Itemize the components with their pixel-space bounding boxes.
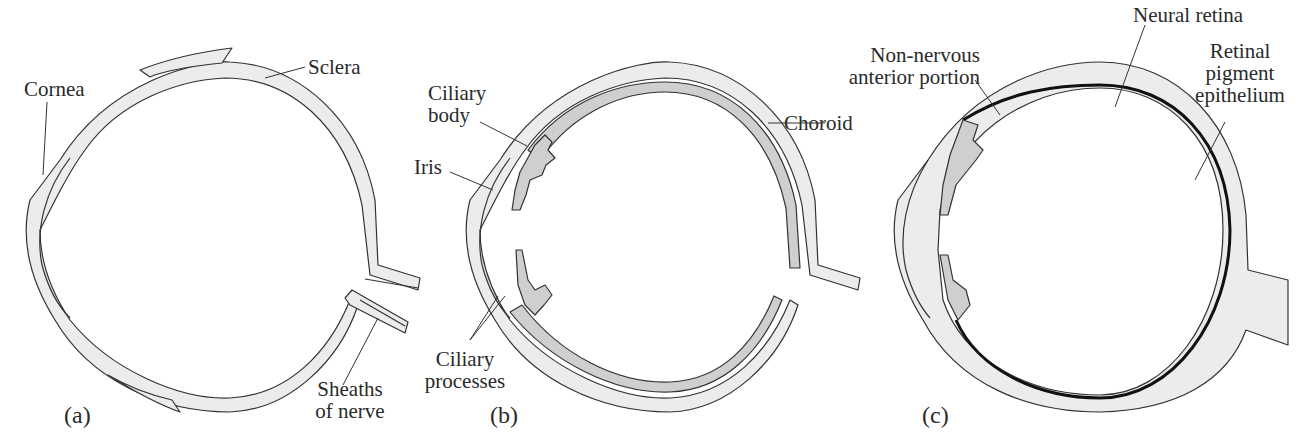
panel-label-b: (b) (490, 404, 518, 426)
panel-label-c: (c) (922, 404, 949, 426)
label-sclera: Sclera (308, 56, 360, 78)
label-non-nervous-anterior-portion: Non-nervous anterior portion (815, 44, 980, 88)
eye-diagram-drawing (0, 0, 1304, 442)
label-choroid: Choroid (784, 112, 853, 134)
eye-diagram-a (26, 48, 420, 412)
eye-diagram-c (894, 62, 1288, 412)
label-retinal-pigment-epithelium: Retinal pigment epithelium (1180, 40, 1300, 106)
label-cornea: Cornea (24, 78, 85, 100)
label-neural-retina: Neural retina (1133, 4, 1243, 26)
label-ciliary-body: Ciliary body (428, 82, 486, 126)
panel-label-a: (a) (64, 404, 91, 426)
label-iris: Iris (414, 156, 442, 178)
label-ciliary-processes: Ciliary processes (405, 348, 525, 392)
eye-development-figure: Cornea Sclera Sheaths of nerve (a) Cilia… (0, 0, 1304, 442)
label-sheaths-of-nerve: Sheaths of nerve (300, 378, 400, 422)
